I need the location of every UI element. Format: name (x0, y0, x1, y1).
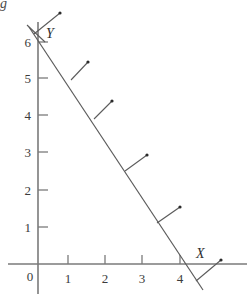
figure-canvas: g 6 5 4 3 (0, 0, 249, 298)
normal-vector-2-shaft (71, 62, 88, 80)
normal-vector-5-tip-dot (178, 205, 181, 208)
y-tick-label-3: 3 (25, 145, 32, 160)
normal-vector-4-tip-dot (145, 153, 148, 156)
x-tick-labels: 1 2 3 4 (65, 271, 184, 286)
normal-vector-3 (94, 99, 114, 119)
normal-vector-6-tip-dot (219, 258, 222, 261)
normal-vector-6 (196, 258, 223, 281)
x-axis-ticks (68, 255, 180, 264)
normal-vector-3-shaft (94, 101, 112, 119)
y-tick-label-1: 1 (25, 220, 32, 235)
x-axis-label: X (195, 246, 205, 261)
y-tick-label-2: 2 (25, 183, 32, 198)
origin-label: 0 (27, 269, 34, 284)
x-tick-label-4: 4 (177, 271, 184, 286)
main-line (29, 27, 203, 290)
y-tick-labels: 6 5 4 3 2 1 (25, 35, 32, 235)
normal-vector-1-tip-dot (58, 11, 61, 14)
normal-vector-2-tip-dot (86, 60, 89, 63)
y-tick-label-6: 6 (25, 35, 32, 50)
coordinate-plot: 6 5 4 3 2 1 1 2 3 4 0 Y X (0, 0, 249, 298)
normal-vector-4 (125, 153, 149, 171)
normal-vector-4-shaft (125, 155, 147, 171)
axes-group (8, 22, 247, 294)
x-tick-label-2: 2 (102, 271, 109, 286)
corner-glyph-text: g (0, 0, 7, 11)
y-tick-label-4: 4 (25, 108, 32, 123)
y-axis-label: Y (46, 26, 56, 41)
x-tick-label-3: 3 (139, 271, 146, 286)
normal-vector-6-shaft (196, 260, 221, 281)
normal-vector-5-shaft (157, 207, 180, 223)
normal-vectors-group (27, 11, 223, 281)
y-tick-label-5: 5 (25, 71, 32, 86)
normal-vector-1 (27, 11, 62, 42)
normal-vector-5 (157, 205, 182, 223)
y-axis-ticks (38, 42, 48, 227)
normal-vector-3-tip-dot (110, 99, 113, 102)
x-tick-label-1: 1 (65, 271, 72, 286)
normal-vector-2 (71, 60, 90, 80)
